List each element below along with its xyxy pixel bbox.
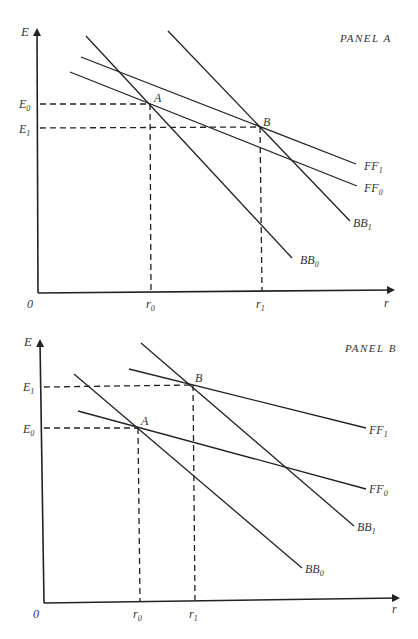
- label-ff1: FF1: [368, 423, 388, 439]
- point-a: A: [153, 91, 162, 105]
- label-bb1: BB1: [353, 216, 372, 232]
- y-axis: [37, 30, 38, 293]
- panel-a: PANEL A E r 0 E0 E1 r0 r1 A B FF1 FF0 BB…: [18, 24, 393, 313]
- diagram-canvas: PANEL A E r 0 E0 E1 r0 r1 A B FF1 FF0 BB…: [0, 0, 418, 639]
- r0-guide: [150, 104, 151, 292]
- tick-r1: r1: [189, 607, 198, 623]
- point-b: B: [195, 371, 203, 385]
- panel-b: PANEL B E r 0 E1 E0 r0 r1 A B FF1 FF0 BB…: [22, 334, 398, 623]
- x-axis-label: r: [384, 296, 389, 310]
- curve-ff0: [78, 411, 366, 489]
- curve-bb1: [141, 343, 354, 526]
- label-ff0: FF0: [368, 482, 388, 498]
- e1-guide: [44, 385, 192, 387]
- panel-b-title: PANEL B: [344, 342, 397, 354]
- x-axis: [38, 290, 393, 293]
- r1-guide: [260, 127, 262, 291]
- y-axis-label: E: [23, 334, 32, 349]
- curve-ff1: [81, 57, 356, 164]
- r1-guide: [193, 385, 195, 600]
- x-axis-label: r: [392, 602, 397, 616]
- curve-bb0: [86, 36, 292, 258]
- tick-e1: E1: [18, 122, 30, 138]
- panel-a-title: PANEL A: [339, 32, 392, 44]
- point-b: B: [263, 115, 271, 129]
- label-bb0: BB0: [300, 253, 319, 269]
- y-axis-label: E: [20, 24, 29, 39]
- tick-r0: r0: [146, 297, 155, 313]
- tick-e0: E0: [18, 97, 30, 113]
- origin-label: 0: [27, 297, 33, 311]
- label-ff0: FF0: [363, 181, 383, 197]
- origin-label: 0: [33, 607, 39, 621]
- x-axis: [44, 598, 398, 603]
- point-a: A: [140, 414, 149, 428]
- r0-guide: [138, 428, 140, 601]
- curve-ff1: [129, 369, 366, 428]
- curve-ff0: [70, 72, 357, 186]
- label-bb0: BB0: [305, 562, 324, 578]
- tick-r1: r1: [256, 297, 265, 313]
- tick-e0: E0: [22, 422, 34, 438]
- y-axis: [40, 341, 44, 603]
- curve-bb1: [168, 31, 350, 221]
- tick-e1: E1: [22, 380, 34, 396]
- label-bb1: BB1: [357, 520, 376, 536]
- label-ff1: FF1: [363, 159, 383, 175]
- tick-r0: r0: [133, 607, 142, 623]
